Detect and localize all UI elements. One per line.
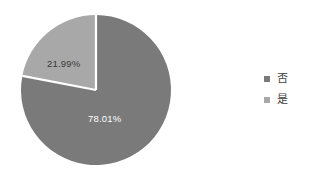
legend-label-no: 否 <box>277 73 288 84</box>
chart-legend: 否 是 <box>264 68 312 110</box>
legend-swatch-icon-yes <box>264 97 270 103</box>
pie-label-yes: 21.99% <box>47 58 80 69</box>
legend-swatch-icon-no <box>264 76 270 82</box>
pie-label-no: 78.01% <box>88 113 121 124</box>
legend-label-yes: 是 <box>277 94 288 105</box>
legend-item-yes[interactable]: 是 <box>264 89 312 110</box>
legend-item-no[interactable]: 否 <box>264 68 312 89</box>
pie-chart-area: 78.01% 21.99% <box>0 0 245 182</box>
pie-chart-graphic <box>0 0 245 182</box>
